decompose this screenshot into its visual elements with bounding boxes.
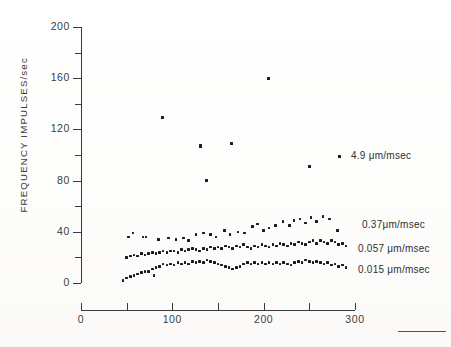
data-point xyxy=(336,229,339,232)
data-point xyxy=(256,223,259,226)
data-point xyxy=(173,264,176,267)
data-point xyxy=(155,252,158,255)
data-point xyxy=(334,263,337,266)
data-point xyxy=(195,233,198,236)
data-point xyxy=(330,264,333,267)
y-axis-line xyxy=(81,27,82,283)
data-point xyxy=(312,261,315,264)
x-axis-line xyxy=(81,310,355,311)
y-axis-tick xyxy=(75,155,81,156)
figure-scatter-plot: 20016012080400 FREQUENCY IMPULSES/sec 01… xyxy=(0,0,451,347)
data-point xyxy=(125,277,128,280)
data-point xyxy=(166,251,169,254)
data-point xyxy=(209,260,212,263)
data-point xyxy=(125,256,128,259)
data-point xyxy=(334,241,337,244)
data-point xyxy=(268,261,271,264)
data-point xyxy=(180,248,183,251)
data-point xyxy=(162,263,165,266)
data-point xyxy=(231,268,234,271)
data-point xyxy=(228,266,231,269)
x-axis-tick-label: 100 xyxy=(150,313,194,325)
data-point xyxy=(253,245,256,248)
data-point xyxy=(243,232,246,235)
data-point xyxy=(147,252,150,255)
data-point xyxy=(251,225,254,228)
data-point xyxy=(169,250,172,253)
data-point xyxy=(288,224,291,227)
data-point xyxy=(272,243,275,246)
data-point xyxy=(268,246,271,249)
data-point xyxy=(169,263,172,266)
data-point xyxy=(286,263,289,266)
data-point xyxy=(330,239,333,242)
y-axis-tick xyxy=(73,232,81,233)
data-point xyxy=(315,260,318,263)
data-point xyxy=(315,220,318,223)
y-axis-tick xyxy=(75,257,81,258)
x-axis-tick-label: 0 xyxy=(59,313,103,325)
data-point xyxy=(198,260,201,263)
y-axis-tick-label: 160 xyxy=(30,71,70,83)
data-point xyxy=(250,263,253,266)
data-point xyxy=(341,242,344,245)
data-point xyxy=(147,270,150,273)
data-point xyxy=(308,165,311,168)
data-point xyxy=(279,242,282,245)
data-point xyxy=(223,229,226,232)
y-axis-tick xyxy=(73,78,81,79)
x-axis-tick xyxy=(81,303,82,310)
y-axis-tick xyxy=(73,283,81,284)
data-point xyxy=(301,242,304,245)
data-point xyxy=(229,233,232,236)
data-point xyxy=(322,215,325,218)
data-point xyxy=(224,265,227,268)
data-point xyxy=(182,237,185,240)
data-point xyxy=(235,266,238,269)
data-point xyxy=(177,261,180,264)
data-point xyxy=(323,241,326,244)
data-point xyxy=(202,232,205,235)
x-axis-tick xyxy=(309,303,310,310)
data-point xyxy=(282,220,285,223)
data-point xyxy=(253,261,256,264)
data-point xyxy=(184,261,187,264)
data-point xyxy=(187,248,190,251)
x-axis-tick-label: 200 xyxy=(242,313,286,325)
data-point xyxy=(304,259,307,262)
data-point xyxy=(297,241,300,244)
y-axis-tick-label: 120 xyxy=(30,122,70,134)
data-point xyxy=(304,243,307,246)
legend-label-2: 0.37μm/msec xyxy=(362,219,425,230)
data-point xyxy=(209,246,212,249)
data-point xyxy=(275,261,278,264)
legend-label-3: 0.057 μm/msec xyxy=(358,243,430,254)
data-point xyxy=(308,241,311,244)
data-point xyxy=(166,264,169,267)
data-point xyxy=(261,261,264,264)
data-point xyxy=(239,265,242,268)
data-point xyxy=(257,246,260,249)
data-point xyxy=(215,236,218,239)
data-point xyxy=(312,239,315,242)
data-point xyxy=(257,263,260,266)
data-point xyxy=(195,248,198,251)
data-point xyxy=(136,255,139,258)
data-point xyxy=(213,247,216,250)
y-axis-title: FREQUENCY IMPULSES/sec xyxy=(18,63,29,213)
data-point xyxy=(153,274,156,277)
data-point xyxy=(136,273,139,276)
y-axis-tick-label: 80 xyxy=(30,174,70,186)
data-point xyxy=(242,263,245,266)
data-point xyxy=(246,246,249,249)
data-point xyxy=(217,246,220,249)
data-point xyxy=(132,232,135,235)
data-point xyxy=(239,246,242,249)
data-point xyxy=(133,274,136,277)
data-point xyxy=(337,265,340,268)
y-axis-tick-label: 40 xyxy=(30,225,70,237)
data-point xyxy=(242,243,245,246)
data-point xyxy=(341,264,344,267)
data-point xyxy=(224,245,227,248)
data-point xyxy=(202,261,205,264)
